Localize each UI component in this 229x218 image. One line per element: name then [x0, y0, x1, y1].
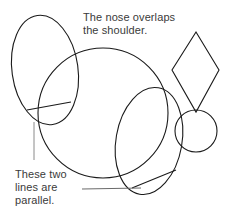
annotation-lines-are-parallel: These two lines are parallel.	[15, 168, 101, 208]
ear-diamond-shape	[172, 32, 219, 112]
parallel-line-hindquarter	[132, 170, 176, 188]
parallel-line-head	[27, 102, 71, 110]
annotation-nose-overlaps-shoulder: The nose overlaps the shoulder.	[83, 11, 195, 37]
muzzle-circle-shape	[175, 110, 217, 152]
figure-container: The nose overlaps the shoulder. These tw…	[0, 0, 229, 218]
shoulder-circle-shape	[38, 48, 168, 178]
hindquarter-ellipse-shape	[107, 82, 191, 200]
head-ellipse-shape	[5, 11, 86, 129]
